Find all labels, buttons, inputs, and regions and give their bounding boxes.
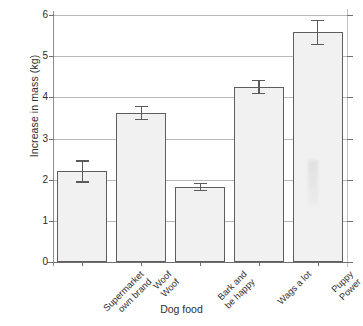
plot-area: 0123456 Supermarketown brandWoofWoofBark… — [53, 15, 347, 262]
error-bar-cap-bottom — [135, 119, 148, 120]
y-tick-label: 3 — [42, 134, 48, 144]
y-tick-mark-right — [347, 221, 353, 222]
error-bar-cap-top — [194, 183, 207, 184]
error-bar-cap-top — [135, 106, 148, 107]
bar-chart: Increase in mass (kg) 0123456 Supermarke… — [0, 0, 363, 326]
error-bar-cap-top — [311, 20, 324, 21]
error-bar-cap-bottom — [311, 44, 324, 45]
y-tick-label: 1 — [42, 216, 48, 226]
error-bar-cap-bottom — [252, 93, 265, 94]
x-tick-mark — [318, 262, 319, 266]
y-tick-mark-right — [347, 180, 353, 181]
y-tick-label: 6 — [42, 10, 48, 20]
x-axis-title: Dog food — [0, 303, 363, 315]
y-tick-label: 0 — [42, 257, 48, 267]
y-tick-mark — [49, 139, 54, 140]
error-bar-stem — [82, 160, 83, 182]
x-tick-mark — [141, 262, 142, 266]
x-tick-label: PuppyPower — [329, 269, 362, 302]
error-bar-cap-bottom — [194, 190, 207, 191]
y-tick-mark-right — [347, 15, 353, 16]
y-tick-label: 5 — [42, 51, 48, 61]
error-bar — [76, 160, 89, 182]
error-bar-cap-bottom — [76, 181, 89, 182]
x-tick-label: WoofWoof — [151, 269, 181, 299]
error-bar-stem — [317, 20, 318, 46]
x-tick-mark — [259, 262, 260, 266]
gridline — [53, 15, 347, 16]
error-bar-cap-top — [252, 80, 265, 81]
x-tick-mark — [82, 262, 83, 266]
bar — [293, 32, 343, 262]
error-bar-cap-top — [76, 160, 89, 161]
bar — [234, 87, 284, 262]
x-tick-label: Wags a lot — [275, 269, 313, 307]
bar — [57, 171, 107, 262]
y-axis-title: Increase in mass (kg) — [28, 26, 40, 186]
y-tick-mark-right — [347, 262, 353, 263]
error-bar — [135, 106, 148, 120]
error-bar — [194, 183, 207, 191]
y-tick-mark — [49, 262, 54, 263]
y-tick-mark-right — [347, 97, 353, 98]
y-tick-label: 4 — [42, 92, 48, 102]
y-tick-mark-right — [347, 139, 353, 140]
y-tick-label: 2 — [42, 175, 48, 185]
y-tick-mark — [49, 180, 54, 181]
error-bar — [311, 20, 324, 46]
y-tick-mark — [49, 221, 54, 222]
bar — [116, 113, 166, 262]
y-tick-mark — [49, 15, 54, 16]
y-tick-mark — [49, 97, 54, 98]
x-tick-mark — [200, 262, 201, 266]
error-bar — [252, 80, 265, 94]
y-tick-mark-right — [347, 56, 353, 57]
y-tick-mark — [49, 56, 54, 57]
bar — [175, 187, 225, 262]
